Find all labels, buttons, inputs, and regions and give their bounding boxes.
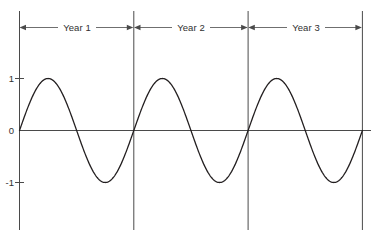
span-label-year-3: Year 3 [285, 22, 327, 33]
span-arrowhead-right-3 [355, 25, 362, 30]
span-arrowhead-right-2 [241, 25, 248, 30]
span-arrowhead-left-2 [134, 25, 141, 30]
sine-wave-figure: 1 0 -1 Year 1 Year 2 Year 3 [0, 0, 379, 236]
span-label-year-2: Year 2 [170, 22, 212, 33]
span-arrowhead-left-3 [248, 25, 255, 30]
divider-lines [20, 11, 363, 230]
y-axis-label-zero: 0 [0, 125, 14, 136]
span-arrowhead-right-1 [127, 25, 134, 30]
chart-canvas [0, 0, 379, 236]
span-arrowhead-left-1 [20, 25, 27, 30]
y-axis-label-plus-one: 1 [0, 73, 14, 84]
y-axis-label-minus-one: -1 [0, 177, 14, 188]
span-label-year-1: Year 1 [56, 22, 98, 33]
